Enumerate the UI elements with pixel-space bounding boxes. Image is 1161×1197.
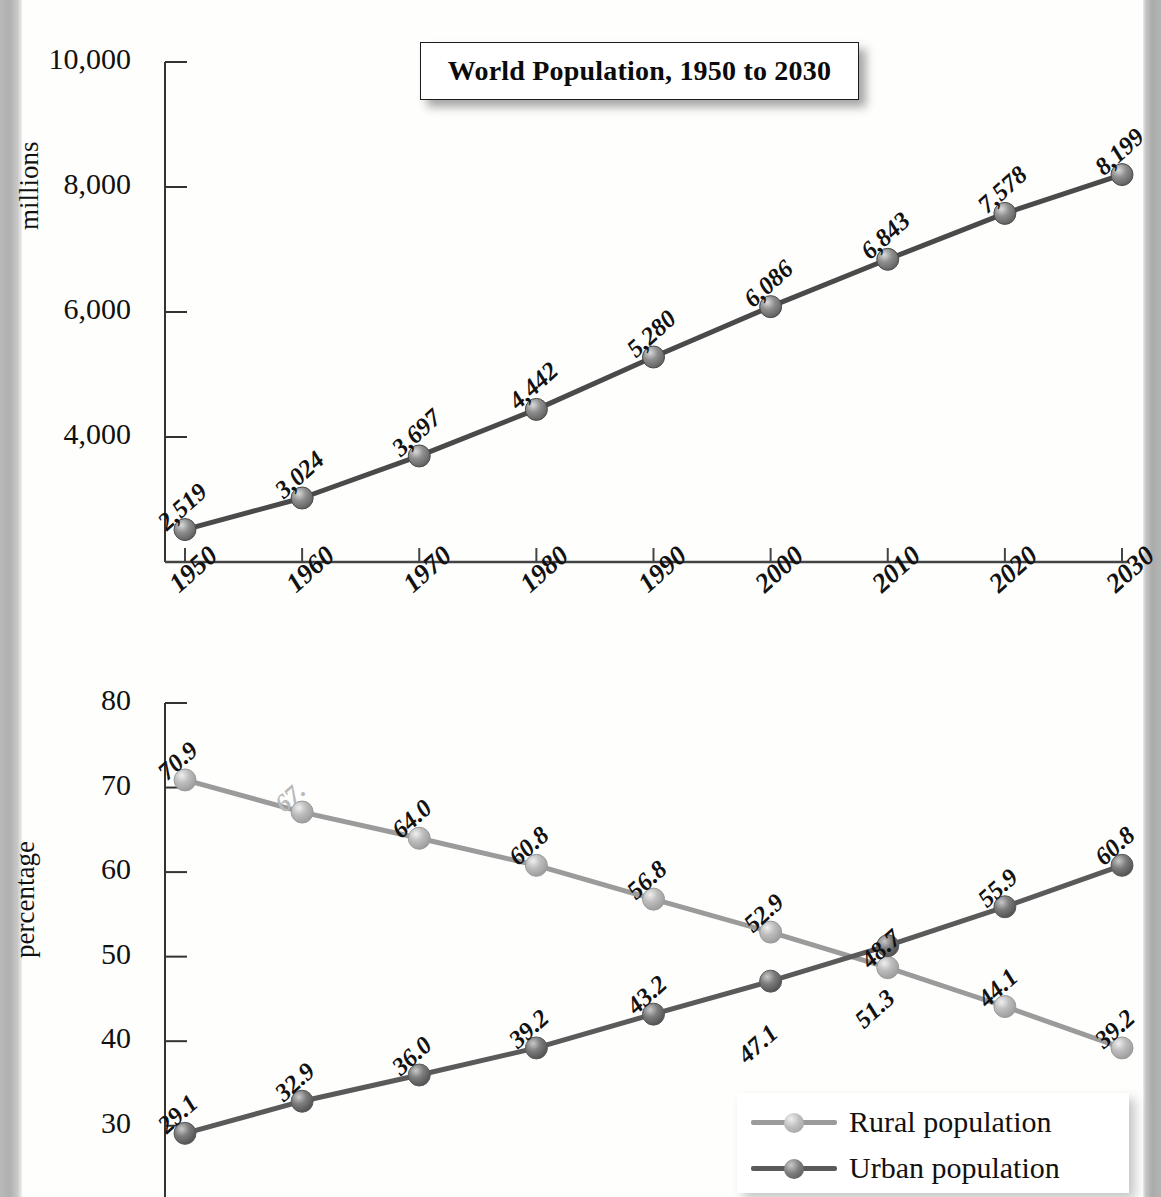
y-tick-label: 6,000 xyxy=(22,292,131,326)
y-tick-label: 4,000 xyxy=(22,417,131,451)
legend-key-urban-icon xyxy=(751,1159,837,1177)
y-tick-label: 80 xyxy=(22,683,131,717)
y-tick-label: 8,000 xyxy=(22,167,131,201)
legend: Rural population Urban population xyxy=(737,1093,1129,1193)
y-tick-label: 50 xyxy=(22,937,131,971)
chart-world-population: World Population, 1950 to 2030 millions … xyxy=(22,0,1143,665)
legend-label-rural: Rural population xyxy=(849,1105,1051,1139)
page-edge-right xyxy=(1143,0,1161,1197)
legend-item-urban[interactable]: Urban population xyxy=(751,1145,1129,1191)
y-tick-label: 70 xyxy=(22,768,131,802)
legend-label-urban: Urban population xyxy=(849,1151,1060,1185)
legend-item-rural[interactable]: Rural population xyxy=(751,1099,1129,1145)
legend-key-rural-icon xyxy=(751,1113,837,1131)
y-tick-label: 10,000 xyxy=(22,42,131,76)
y-tick-label: 60 xyxy=(22,852,131,886)
scanned-page: World Population, 1950 to 2030 millions … xyxy=(0,0,1161,1197)
y-tick-label: 30 xyxy=(22,1106,131,1140)
chart-title-top: World Population, 1950 to 2030 xyxy=(420,42,859,100)
y-tick-label: 40 xyxy=(22,1021,131,1055)
